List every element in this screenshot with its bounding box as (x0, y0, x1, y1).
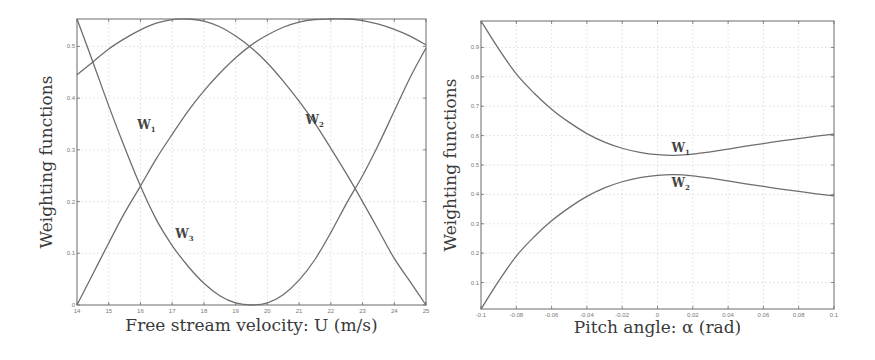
y-tick-label: 0.5 (67, 43, 76, 49)
x-tick-label: 0.08 (793, 312, 805, 318)
y-axis-label: Weighting functions (36, 76, 56, 249)
figure: 14151617181920212223242500.10.20.30.40.5… (0, 0, 875, 360)
y-axis-label: Weighting functions (440, 79, 460, 252)
y-tick-label: 0.5 (471, 162, 480, 168)
curve-label-subscript: 1 (685, 148, 690, 157)
y-tick-label: 0.2 (67, 199, 76, 205)
curve-label: W1 (671, 141, 690, 157)
curve-label: W1 (136, 118, 155, 134)
curve-label-text: W (671, 141, 686, 155)
x-tick-label: 20 (264, 308, 271, 314)
x-tick-label: 24 (391, 308, 398, 314)
x-tick-label: -0.1 (476, 312, 487, 318)
x-axis-label: Free stream velocity: U (m/s) (125, 315, 377, 335)
series-line-w2 (77, 19, 426, 305)
y-tick-label: 0.8 (471, 74, 480, 80)
curve-label-subscript: 2 (319, 120, 324, 129)
x-tick-label: 22 (327, 308, 334, 314)
curve-label: W3 (174, 227, 193, 243)
y-tick-label: 0.9 (471, 44, 480, 50)
curve-label-text: W (136, 118, 151, 132)
x-tick-label: 14 (74, 308, 81, 314)
x-tick-label: 0.06 (758, 312, 770, 318)
curve-label-text: W (671, 176, 686, 190)
y-tick-label: 0.3 (67, 147, 76, 153)
plot-frame (77, 19, 426, 305)
y-tick-label: 0.1 (67, 250, 76, 256)
pitch-weighting-chart: -0.1-0.08-0.06-0.04-0.0200.020.040.060.0… (440, 21, 839, 337)
y-tick-label: 0.7 (471, 103, 480, 109)
x-tick-label: 15 (105, 308, 112, 314)
velocity-weighting-chart: 14151617181920212223242500.10.20.30.40.5… (36, 19, 430, 335)
curve-label-subscript: 1 (151, 125, 156, 134)
y-tick-label: 0.4 (471, 191, 480, 197)
series-line-w1 (77, 19, 426, 305)
y-tick-label: 0.3 (471, 221, 480, 227)
x-tick-label: -0.08 (509, 312, 523, 318)
series-line-w3 (77, 19, 426, 305)
curve-label-subscript: 2 (685, 183, 690, 192)
y-tick-label: 0.4 (67, 95, 76, 101)
curve-label-subscript: 3 (189, 234, 194, 243)
y-tick-label: 0.2 (471, 250, 480, 256)
y-tick-label: 0.6 (471, 133, 480, 139)
curve-label: W2 (304, 113, 323, 129)
x-tick-label: 18 (201, 308, 208, 314)
curve-label-text: W (174, 227, 189, 241)
x-tick-label: 16 (137, 308, 144, 314)
x-tick-label: 21 (296, 308, 303, 314)
x-tick-label: 25 (423, 308, 430, 314)
x-axis-label: Pitch angle: α (rad) (574, 317, 741, 337)
curve-label: W2 (671, 176, 690, 192)
x-tick-label: -0.06 (545, 312, 559, 318)
y-tick-label: 0.1 (471, 280, 480, 286)
curve-label-text: W (304, 113, 319, 127)
x-tick-label: 23 (359, 308, 366, 314)
x-tick-label: 0.1 (830, 312, 839, 318)
x-tick-label: 17 (169, 308, 176, 314)
x-tick-label: 19 (232, 308, 239, 314)
